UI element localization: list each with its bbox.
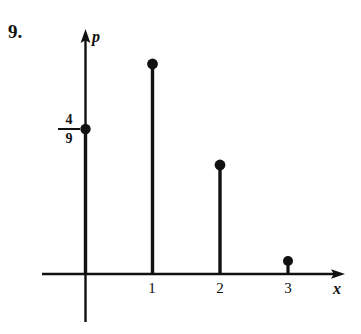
x-axis	[42, 269, 345, 279]
stem-x3	[283, 256, 293, 274]
stem-dot-x1	[147, 59, 158, 70]
figure-screenshot: 9.	[0, 0, 361, 334]
x-tick-label-1: 1	[142, 281, 162, 296]
stem-x2	[215, 160, 226, 274]
stem-x1	[147, 59, 158, 274]
stem-dot-x3	[283, 256, 293, 266]
fraction-denominator: 9	[58, 131, 80, 146]
x-tick-label-2: 2	[210, 281, 230, 296]
stem-dot-x0	[80, 124, 90, 134]
plot-svg	[0, 0, 361, 334]
y-value-fraction-label: 4 9	[58, 112, 80, 147]
fraction-numerator: 4	[58, 112, 80, 127]
x-tick-label-3: 3	[278, 281, 298, 296]
stem-x0	[80, 124, 90, 274]
stem-plot	[0, 0, 361, 334]
stem-dot-x2	[215, 160, 226, 171]
x-axis-name-label: x	[333, 281, 341, 297]
y-axis-name-label: p	[92, 29, 100, 45]
fraction-bar	[58, 128, 80, 130]
